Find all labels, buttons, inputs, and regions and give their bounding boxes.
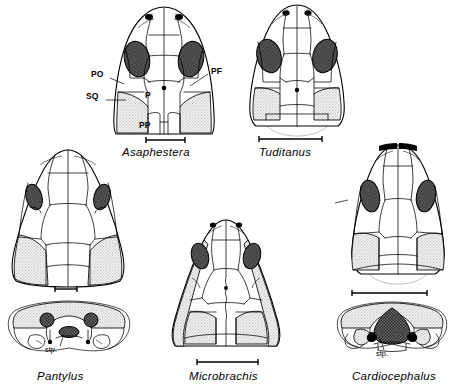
specimen-cardiocephalus-dorsal <box>343 142 453 290</box>
pantylus-skull-drawing <box>10 147 126 289</box>
bone-label-pf: PF <box>211 66 222 76</box>
specimen-pantylus-occipital <box>6 298 132 360</box>
taxon-label-microbrachis: Microbrachis <box>189 370 258 382</box>
bone-label-p: P <box>145 90 151 100</box>
bone-label-pp: PP <box>139 120 150 130</box>
bone-label-po: PO <box>91 69 103 79</box>
pantylus-stapes-leader <box>52 332 72 348</box>
specimen-tuditanus-dorsal <box>242 2 352 142</box>
scalebar-tuditanus <box>258 135 326 143</box>
tuditanus-skull-drawing <box>242 2 352 142</box>
scalebar-microbrachis <box>196 358 262 366</box>
scalebar-cardiocephalus <box>351 289 431 297</box>
taxon-label-pantylus: Pantylus <box>37 370 84 382</box>
taxon-label-cardiocephalus: Cardiocephalus <box>352 370 436 382</box>
taxon-label-tuditanus: Tuditanus <box>259 146 311 158</box>
bone-label-sq: SQ <box>86 91 98 101</box>
cardiocephalus-stapes-leader <box>378 336 394 352</box>
scalebar-asaphestera <box>145 136 187 144</box>
cardiocephalus-skull-drawing <box>343 142 453 290</box>
taxon-label-asaphestera: Asaphestera <box>122 146 190 158</box>
pantylus-occiput-drawing <box>6 298 132 360</box>
microbrachis-skull-drawing <box>168 218 284 350</box>
specimen-microbrachis-dorsal <box>168 218 284 350</box>
scalebar-pantylus <box>54 285 80 293</box>
cardiocephalus-orbit-leader <box>334 196 352 210</box>
skull-comparison-figure: PO SQ P PP PF Asaphestera <box>0 0 454 391</box>
specimen-pantylus-dorsal <box>10 147 126 289</box>
